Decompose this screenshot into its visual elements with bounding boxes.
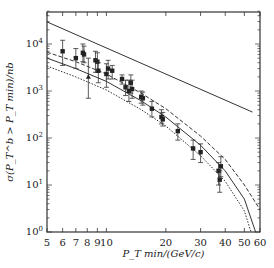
x-tick-label: 20: [159, 237, 172, 248]
x-tick-label: 7: [73, 237, 79, 248]
y-tick-label: 101: [26, 178, 43, 190]
chart: 56789102030405060100101102103104P_T min/…: [0, 0, 274, 268]
plot-border: [47, 12, 260, 232]
data-point: [74, 56, 78, 60]
y-tick-label: 100: [26, 225, 43, 237]
data-point: [130, 87, 134, 91]
y-tick-label: 103: [26, 84, 43, 96]
x-tick-label: 10: [100, 237, 113, 248]
y-tick-label: 104: [26, 37, 44, 49]
data-point: [176, 129, 180, 133]
axis-ticks: [47, 11, 260, 232]
series-lines: [47, 22, 260, 232]
x-tick-label: 40: [219, 237, 232, 248]
x-tick-label: 6: [59, 237, 65, 248]
series-line: [47, 66, 251, 232]
x-tick-label: 5: [44, 237, 50, 248]
data-point: [110, 69, 114, 73]
data-point: [106, 66, 110, 70]
data-point: [191, 146, 195, 150]
x-tick-label: 30: [194, 237, 207, 248]
data-point: [150, 107, 154, 111]
data-point: [218, 177, 222, 181]
plot-frame: [47, 12, 260, 232]
x-tick-label: 8: [84, 237, 90, 248]
data-point: [219, 164, 223, 168]
data-point: [82, 52, 86, 56]
data-point: [60, 49, 64, 53]
axis-labels: 56789102030405060100101102103104P_T min/…: [4, 37, 266, 260]
series-line: [47, 58, 256, 232]
x-tick-label: 50: [238, 237, 251, 248]
y-tick-label: 102: [26, 131, 43, 143]
data-point: [95, 60, 99, 64]
data-point: [161, 117, 165, 121]
series-line: [47, 22, 253, 112]
x-tick-label: 60: [254, 237, 267, 248]
x-axis-title: P_T min/(GeV/c): [122, 248, 205, 260]
data-point: [198, 150, 202, 154]
data-point: [141, 96, 145, 100]
data-point: [96, 69, 100, 73]
y-axis-title: σ(P_T^b > P_T min)/nb: [4, 62, 16, 181]
